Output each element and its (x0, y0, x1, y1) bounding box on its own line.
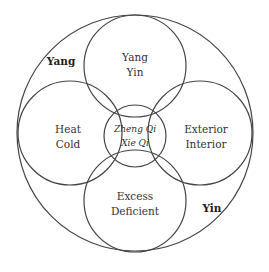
bottom-label-2: Deficient (111, 205, 160, 217)
left-label-2: Cold (56, 138, 81, 150)
bottom-label-1: Excess (117, 190, 153, 202)
top-label-2: Yin (126, 66, 144, 78)
eight-principles-diagram: Yang Yin Yang Yin Heat Cold Exterior Int… (0, 0, 269, 272)
right-label-2: Interior (185, 138, 227, 150)
right-label-1: Exterior (184, 123, 229, 135)
center-circle (104, 105, 166, 167)
outer-label-yang: Yang (46, 55, 76, 67)
outer-label-yin: Yin (202, 202, 222, 214)
top-label-1: Yang (121, 51, 148, 63)
center-label-1: Zheng Qi (113, 124, 156, 134)
left-label-1: Heat (55, 123, 82, 135)
center-label-2: Xie Qi (120, 138, 149, 148)
